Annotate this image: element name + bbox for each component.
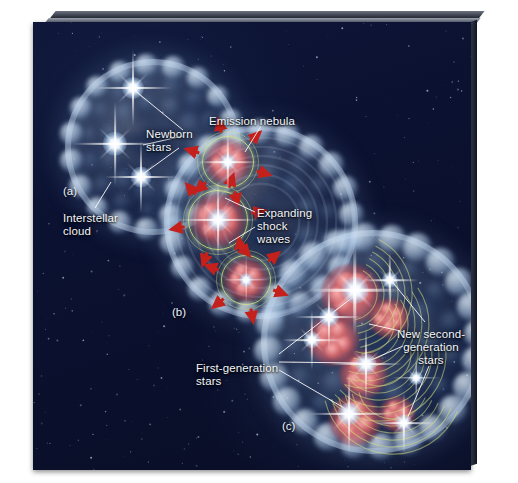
label-emission-nebula: Emission nebula bbox=[209, 115, 295, 128]
panel-bevel-right-edge bbox=[470, 20, 477, 466]
panel-letter-b: (b) bbox=[172, 306, 186, 318]
diagram-panel: Newborn starsInterstellar cloudEmission … bbox=[33, 22, 471, 470]
panel-letter-c: (c) bbox=[282, 420, 295, 432]
label-interstellar-cloud: Interstellar cloud bbox=[63, 212, 118, 238]
panel-letter-a: (a) bbox=[63, 185, 77, 197]
label-first-generation-stars: First-generation stars bbox=[196, 362, 278, 388]
label-expanding-shock-waves: Expanding shock waves bbox=[257, 207, 312, 246]
label-new-second-generation-stars: New second- generation stars bbox=[397, 328, 465, 367]
label-newborn-stars: Newborn stars bbox=[146, 128, 193, 154]
star-formation-figure: Newborn starsInterstellar cloudEmission … bbox=[0, 0, 518, 483]
shockwave-and-leader-layer bbox=[33, 22, 471, 470]
